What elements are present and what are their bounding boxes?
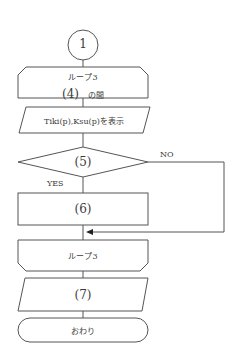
terminal-label: おわり	[18, 325, 148, 336]
arrowhead-icon	[86, 229, 93, 235]
decision-label: (5)	[18, 155, 148, 169]
output-1-label: Tiki(p),Ksu(p)を表示	[18, 115, 150, 126]
process-label: (6)	[18, 202, 148, 216]
output-2-label: (7)	[18, 288, 148, 302]
no-label: NO	[160, 150, 174, 159]
loop-condition-number: (4)	[62, 87, 79, 101]
flowchart-canvas	[0, 0, 242, 363]
loop-start-line1: ループ3	[18, 71, 148, 82]
loop-condition-suffix: の間	[88, 91, 104, 100]
yes-label: YES	[47, 179, 64, 188]
loop-end-label: ループ3	[18, 250, 148, 261]
loop-start-line2: (4) の間	[18, 83, 148, 102]
connector-label: 1	[73, 37, 93, 51]
